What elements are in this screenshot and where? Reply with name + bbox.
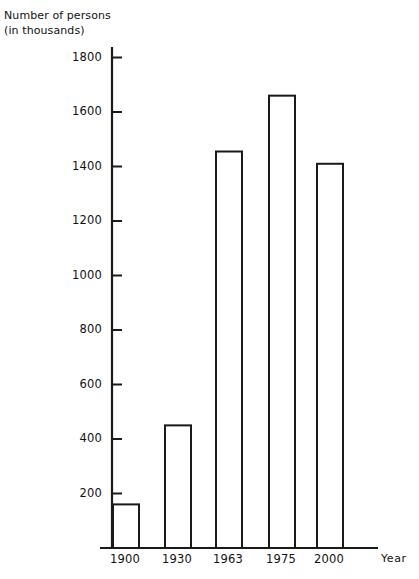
y-tick-label: 200 [56,486,102,500]
bar [113,504,139,548]
y-tick-label: 1200 [56,213,102,227]
y-axis-ticks [112,58,122,494]
y-tick-label: 400 [56,431,102,445]
y-tick-label: 1400 [56,159,102,173]
y-tick-label: 1800 [56,50,102,64]
y-tick-label: 600 [56,377,102,391]
y-tick-label: 1600 [56,104,102,118]
y-tick-label: 1000 [56,268,102,282]
bar [317,164,343,548]
y-tick-label: 800 [56,322,102,336]
x-category-label: 2000 [299,552,359,566]
bars [113,96,343,548]
bar-chart: Number of persons(in thousands) Year 200… [0,0,419,579]
bar [165,425,191,548]
x-category-label: 1900 [95,552,155,566]
x-category-label: 1963 [198,552,258,566]
bar [216,152,242,548]
bar [269,96,295,548]
